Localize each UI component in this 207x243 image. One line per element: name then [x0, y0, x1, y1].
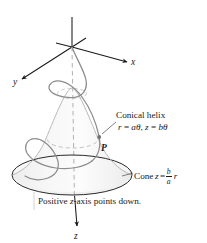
cone-eq-equals: = — [160, 172, 165, 181]
helix-eq-b-theta: bθ — [158, 122, 167, 132]
figure-canvas — [0, 0, 207, 243]
axis-x-stub — [56, 43, 72, 47]
cone-equation-label: Conez= b a r — [134, 168, 179, 186]
leader-to-conical-helix — [102, 122, 116, 134]
axis-z-label: z — [74, 232, 78, 242]
helix-eq-equals-1: = — [122, 122, 132, 132]
point-p-label: P — [101, 144, 107, 154]
caption-suffix: -axis points down. — [73, 196, 141, 206]
cone-eq-denominator: a — [166, 178, 172, 186]
point-p-marker — [97, 135, 101, 139]
figure-caption: Positive z-axis points down. — [38, 197, 141, 206]
cone-eq-numerator: b — [166, 168, 172, 176]
axis-x-line — [72, 47, 127, 62]
cone-eq-var-r: r — [172, 172, 179, 181]
conical-helix-equation: r = aθ, z = bθ — [118, 123, 168, 132]
axis-y-line — [22, 47, 72, 79]
cone-eq-fraction: b a — [166, 168, 172, 186]
cone-eq-var-z: z — [153, 172, 160, 181]
helix-eq-equals-2: = — [149, 122, 159, 132]
cone-eq-word: Cone — [134, 172, 153, 181]
axis-y-label: y — [13, 78, 17, 88]
caption-prefix: Positive — [38, 196, 70, 206]
conical-helix-label: Conical helix — [116, 111, 165, 120]
conical-helix-figure: x y z Conical helix r = aθ, z = bθ P Con… — [0, 0, 207, 243]
axis-y-stub — [72, 38, 86, 47]
point-p-dot — [97, 135, 101, 139]
axis-x-label: x — [131, 58, 135, 68]
helix-turn-upper — [49, 47, 86, 98]
